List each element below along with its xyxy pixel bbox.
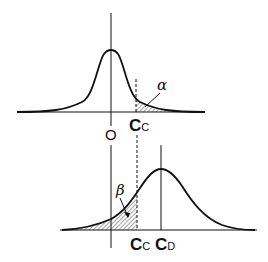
top-cc-label: CC	[129, 117, 149, 134]
cd-sub: D	[167, 240, 175, 252]
origin-label: O	[105, 127, 117, 142]
cd-label: CD	[155, 236, 175, 253]
top-cc-main: C	[129, 116, 141, 135]
bottom-panel	[60, 135, 257, 248]
top-cc-sub: C	[141, 121, 149, 133]
bottom-cc-sub: C	[142, 240, 150, 252]
alpha-label: α	[157, 78, 167, 93]
alternative-distribution-curve	[62, 169, 255, 230]
beta-label: β	[116, 183, 125, 198]
top-panel	[17, 13, 205, 126]
cd-main: C	[155, 235, 167, 254]
bottom-cc-label: CC	[130, 236, 150, 253]
alpha-pointer	[145, 93, 160, 107]
bottom-cc-main: C	[130, 235, 142, 254]
